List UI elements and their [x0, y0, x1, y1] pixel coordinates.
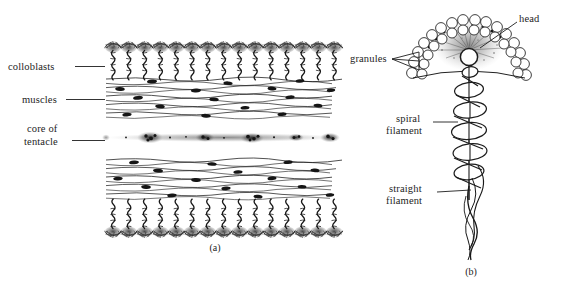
- label-straight-filament-line2: filament: [386, 195, 422, 206]
- label-spiral-filament-line1: spiral: [396, 113, 420, 124]
- layer-tentacle-core: [102, 132, 342, 144]
- caption-panel-a: (a): [209, 242, 220, 254]
- nucleus: [460, 48, 477, 65]
- caption-panel-b: (b): [465, 266, 477, 278]
- label-core-of-tentacle-line1: core of: [27, 123, 58, 134]
- label-spiral-filament-line2: filament: [386, 125, 422, 136]
- label-core-of-tentacle-line2: tentacle: [24, 136, 58, 147]
- colloblast-diagram-svg: colloblasts muscles core of tentacle (a): [0, 0, 561, 286]
- figure-canvas: colloblasts muscles core of tentacle (a): [0, 0, 561, 286]
- label-straight-filament-line1: straight: [389, 183, 422, 194]
- label-granules: granules: [350, 53, 387, 64]
- label-head: head: [519, 13, 540, 24]
- label-muscles: muscles: [22, 94, 57, 105]
- label-colloblasts: colloblasts: [8, 61, 55, 72]
